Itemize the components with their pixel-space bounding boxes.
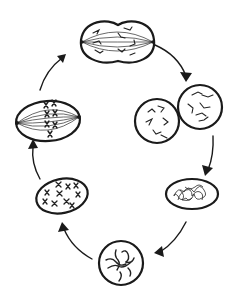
- cell-metaphase: [15, 99, 82, 143]
- arrow-metaphase-to-top: [40, 54, 66, 90]
- cell-telophase: [80, 21, 155, 62]
- cell-daughter-left: [135, 99, 179, 143]
- arrow-interphase-to-prophase: [154, 222, 186, 257]
- arrow-right-to-interphase: [202, 136, 213, 176]
- arrow-prometaphase-to-metaphase: [28, 139, 40, 179]
- arrow-prophase-to-prometaphase: [58, 222, 92, 259]
- cell-daughter-right: [178, 85, 222, 129]
- cell-interphase: [166, 179, 218, 209]
- cell-prophase: [99, 241, 143, 285]
- cell-cycle-diagram: [0, 0, 235, 303]
- cell-prometaphase: [33, 174, 91, 218]
- arrow-top-to-right: [155, 45, 192, 82]
